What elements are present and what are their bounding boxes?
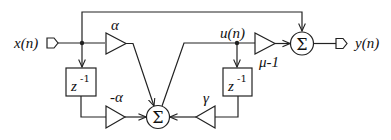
gain-neg-alpha-label: -α [110, 89, 124, 105]
delay-right-base: z [227, 78, 234, 94]
output-terminal-icon [336, 39, 347, 49]
gain-mu-minus-one-label: μ-1 [258, 54, 279, 70]
delay-left-base: z [70, 78, 77, 94]
gain-gamma-label: γ [203, 90, 210, 106]
internal-node-label: u(n) [220, 25, 245, 42]
input-terminal-icon [47, 38, 58, 48]
gain-neg-alpha-icon [106, 106, 125, 128]
gain-mu-minus-one-icon [255, 33, 275, 54]
delay-left-output-wire [81, 96, 106, 117]
gain-gamma-icon [196, 106, 215, 128]
alpha-to-sum-wire [126, 44, 154, 107]
input-label: x(n) [13, 35, 38, 52]
delay-right-output-wire [215, 96, 238, 117]
summer-middle-symbol: Σ [152, 108, 163, 127]
output-label: y(n) [353, 35, 379, 52]
summer-output-symbol: Σ [296, 35, 307, 54]
block-diagram: x(n) α z -1 -α Σ u(n) z -1 γ μ-1 Σ y(n) [0, 0, 391, 140]
delay-left-exp: -1 [80, 73, 90, 84]
gain-alpha-label: α [111, 17, 120, 33]
delay-right-exp: -1 [237, 73, 247, 84]
gain-alpha-icon [106, 33, 126, 54]
